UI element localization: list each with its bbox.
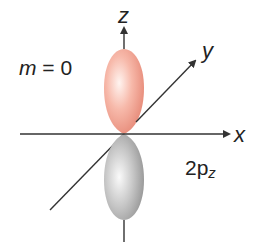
orbital-svg <box>0 0 267 244</box>
orbital-subscript: z <box>208 164 216 181</box>
lower-lobe <box>104 134 144 220</box>
z-axis-label: z <box>118 5 129 27</box>
m-value: 0 <box>60 56 72 79</box>
orbital-name-label: 2pz <box>185 157 216 180</box>
m-variable: m <box>19 56 37 79</box>
y-axis-upper <box>136 61 195 122</box>
upper-lobe <box>104 49 144 134</box>
orbital-diagram: z y x m = 0 2pz <box>0 0 267 244</box>
orbital-main: 2p <box>185 156 208 179</box>
quantum-number-label: m = 0 <box>19 57 72 78</box>
x-axis-label: x <box>234 124 245 146</box>
y-axis-label: y <box>202 40 213 62</box>
equals-sign: = <box>42 56 54 79</box>
